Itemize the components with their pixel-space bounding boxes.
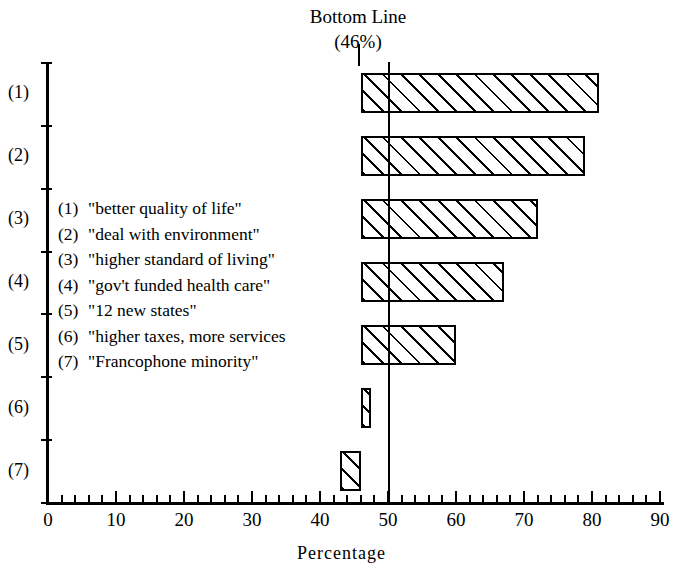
x-tick-label: 90: [640, 509, 680, 531]
x-tick-major: [47, 491, 49, 502]
x-tick-minor: [333, 495, 335, 502]
x-tick-minor: [645, 495, 647, 502]
legend-item: (1)"better quality of life": [58, 196, 286, 222]
x-tick-major: [251, 491, 253, 502]
x-tick-minor: [224, 495, 226, 502]
x-tick-major: [319, 491, 321, 502]
x-tick-minor: [564, 495, 566, 502]
x-tick-minor: [509, 495, 511, 502]
x-tick-label: 40: [300, 509, 340, 531]
x-tick-minor: [373, 495, 375, 502]
y-tick: [41, 188, 52, 190]
x-tick-minor: [142, 495, 144, 502]
legend-item-key: (2): [58, 222, 88, 248]
chart-legend: (1)"better quality of life"(2)"deal with…: [58, 196, 286, 375]
x-tick-minor: [292, 495, 294, 502]
legend-item-label: "higher standard of living": [88, 249, 275, 269]
y-tick-label: (1): [8, 82, 46, 103]
legend-item-key: (4): [58, 273, 88, 299]
legend-item: (3)"higher standard of living": [58, 247, 286, 273]
y-tick-label: (5): [8, 334, 46, 355]
x-axis-title: Percentage: [0, 543, 683, 564]
x-tick-minor: [618, 495, 620, 502]
x-tick-label: 50: [368, 509, 408, 531]
legend-item-label: "deal with environment": [88, 224, 260, 244]
x-tick-major: [115, 491, 117, 502]
legend-item-key: (1): [58, 196, 88, 222]
legend-item: (2)"deal with environment": [58, 222, 286, 248]
x-tick-minor: [129, 495, 131, 502]
x-tick-major: [523, 491, 525, 502]
bar-7: [340, 451, 360, 491]
x-tick-label: 10: [96, 509, 136, 531]
x-tick-minor: [197, 495, 199, 502]
y-tick-label: (2): [8, 145, 46, 166]
x-tick-minor: [169, 495, 171, 502]
x-tick-minor: [577, 495, 579, 502]
chart-plot-area: Bottom Line (46%) 0102030405060708090 (1…: [0, 0, 683, 583]
x-tick-minor: [469, 495, 471, 502]
x-tick-label: 0: [28, 509, 68, 531]
y-tick: [41, 313, 52, 315]
x-tick-minor: [61, 495, 63, 502]
x-tick-minor: [278, 495, 280, 502]
x-tick-minor: [414, 495, 416, 502]
y-tick: [41, 439, 52, 441]
legend-item: (4)"gov't funded health care": [58, 273, 286, 299]
legend-item-label: "higher taxes, more services: [88, 326, 286, 346]
x-tick-label: 30: [232, 509, 272, 531]
x-tick-major: [183, 491, 185, 502]
x-tick-minor: [632, 495, 634, 502]
x-tick-minor: [360, 495, 362, 502]
legend-item-key: (6): [58, 324, 88, 350]
legend-item-label: "12 new states": [88, 300, 197, 320]
bar-5: [361, 325, 456, 365]
x-tick-minor: [346, 495, 348, 502]
x-tick-major: [591, 491, 593, 502]
x-tick-minor: [88, 495, 90, 502]
x-tick-label: 80: [572, 509, 612, 531]
legend-item-label: "Francophone minority": [88, 351, 258, 371]
bar-6: [361, 388, 371, 428]
legend-item: (7)"Francophone minority": [58, 349, 286, 375]
y-tick-label: (7): [8, 460, 46, 481]
y-tick-label: (3): [8, 208, 46, 229]
x-tick-minor: [237, 495, 239, 502]
y-tick: [41, 502, 52, 504]
x-tick-minor: [441, 495, 443, 502]
x-tick-major: [659, 491, 661, 502]
x-tick-minor: [265, 495, 267, 502]
x-tick-minor: [305, 495, 307, 502]
legend-item: (5)"12 new states": [58, 298, 286, 324]
y-axis-line: [46, 62, 49, 504]
x-tick-minor: [401, 495, 403, 502]
x-tick-minor: [428, 495, 430, 502]
legend-item-key: (7): [58, 349, 88, 375]
x-tick-minor: [496, 495, 498, 502]
y-tick: [41, 376, 52, 378]
x-tick-minor: [156, 495, 158, 502]
y-tick-label: (6): [8, 397, 46, 418]
y-tick-label: (4): [8, 271, 46, 292]
y-tick: [41, 62, 52, 64]
x-tick-label: 60: [436, 509, 476, 531]
x-tick-label: 20: [164, 509, 204, 531]
x-tick-minor: [550, 495, 552, 502]
bar-4: [361, 262, 504, 302]
x-tick-minor: [482, 495, 484, 502]
reference-line-50: [388, 62, 390, 504]
y-tick: [41, 125, 52, 127]
x-tick-label: 70: [504, 509, 544, 531]
x-tick-minor: [537, 495, 539, 502]
legend-item-label: "better quality of life": [88, 198, 242, 218]
legend-item-key: (3): [58, 247, 88, 273]
x-tick-minor: [210, 495, 212, 502]
bar-2: [361, 136, 585, 176]
x-axis-line: [46, 502, 664, 505]
x-tick-minor: [101, 495, 103, 502]
y-tick: [41, 251, 52, 253]
bar-1: [361, 73, 599, 113]
legend-item-key: (5): [58, 298, 88, 324]
bottom-line-pointer: [358, 44, 360, 66]
x-tick-minor: [74, 495, 76, 502]
